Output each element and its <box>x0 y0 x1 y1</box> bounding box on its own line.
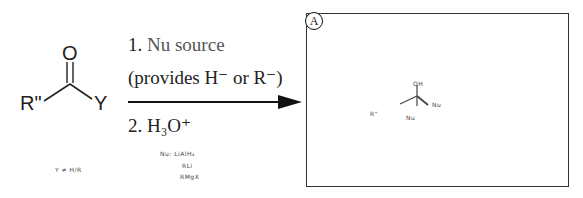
nu-note-1: Nu: LiAlH₄ <box>160 150 195 157</box>
y-group-label: Y <box>94 92 107 115</box>
reagent-step-1: 1. Nu source <box>128 34 225 56</box>
y-condition-note: Y ≠ H/R <box>55 166 82 173</box>
step2-text: H₃O⁺ <box>147 115 191 136</box>
step1-number: 1. <box>128 34 142 55</box>
product-oh: OH <box>413 80 423 87</box>
box-label-a: A <box>305 12 323 30</box>
product-r-group: R" <box>370 110 378 117</box>
product-nu-bottom: Nu <box>406 114 415 121</box>
nu-note-2: RLi <box>182 162 193 169</box>
reaction-arrow <box>126 92 306 112</box>
step1-text: Nu source <box>147 34 225 55</box>
step2-number: 2. <box>128 115 142 136</box>
reagent-step-1-detail: (provides H⁻ or R⁻) <box>128 66 283 89</box>
r-group-label: R" <box>20 92 42 115</box>
oxygen-atom: O <box>62 42 78 65</box>
nu-note-3: RMgX <box>180 173 199 180</box>
product-nu-right: Nu <box>432 101 441 108</box>
reagent-step-2: 2. H₃O⁺ <box>128 114 191 137</box>
